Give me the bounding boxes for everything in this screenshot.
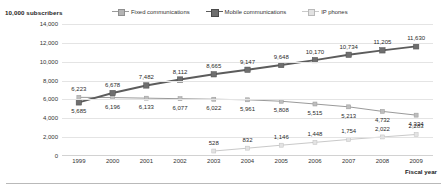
data-label: 5,515 (307, 110, 322, 116)
x-axis-tick-label: 2000 (106, 158, 119, 164)
data-point-marker (279, 62, 284, 67)
y-axis-tick-label: 6,000 (43, 96, 58, 102)
data-point-marker (347, 105, 351, 109)
data-label: 9,648 (274, 54, 289, 60)
gridline (62, 99, 433, 100)
data-label: 1,448 (307, 131, 322, 137)
legend-item-ip-phones[interactable]: IP phones (302, 8, 347, 15)
data-point-marker (313, 102, 317, 106)
data-label: 6,077 (173, 105, 188, 111)
y-axis-tick-label: 12,000 (40, 40, 58, 46)
data-label: 11,205 (373, 39, 391, 45)
data-point-marker (413, 44, 418, 49)
y-axis-tick-label: 14,000 (40, 21, 58, 27)
data-label: 11,630 (407, 35, 425, 41)
data-point-marker (110, 90, 115, 95)
data-point-marker (212, 149, 216, 153)
chart-legend: Fixed communications Mobile communicatio… (112, 8, 348, 15)
x-axis-tick-label: 2003 (207, 158, 220, 164)
data-label: 5,961 (240, 106, 255, 112)
data-label: 6,133 (139, 104, 154, 110)
legend-item-mobile-communications[interactable]: Mobile communications (206, 8, 287, 15)
data-label: 6,678 (105, 82, 120, 88)
data-label: 5,685 (71, 108, 86, 114)
data-label: 2,283 (409, 123, 424, 129)
data-label: 10,170 (306, 49, 324, 55)
legend-item-fixed-communications[interactable]: Fixed communications (112, 8, 190, 15)
data-label: 6,022 (206, 105, 221, 111)
data-label: 5,213 (341, 113, 356, 119)
x-axis-tick-label: 2006 (308, 158, 321, 164)
x-axis-tick-label: 1999 (72, 158, 85, 164)
gridline (62, 24, 433, 25)
series-line (79, 46, 416, 102)
x-axis-tick-label: 2004 (241, 158, 254, 164)
x-axis-tick-label: 2009 (409, 158, 422, 164)
data-label: 8,112 (173, 69, 188, 75)
data-label: 1,146 (274, 134, 289, 140)
y-axis-tick-label: 4,000 (43, 115, 58, 121)
data-point-marker (346, 52, 351, 57)
data-point-marker (76, 100, 81, 105)
y-axis-tick-label: 2,000 (43, 134, 58, 140)
data-label: 4,732 (375, 117, 390, 123)
data-point-marker (414, 132, 418, 136)
y-axis-tick-label: 0 (55, 153, 58, 159)
data-point-marker (313, 140, 317, 144)
bottom-divider (6, 183, 441, 184)
data-label: 1,754 (341, 128, 356, 134)
data-label: 10,734 (339, 44, 357, 50)
legend-label-mobile: Mobile communications (225, 9, 287, 15)
data-label: 6,196 (105, 104, 120, 110)
data-label: 8,665 (206, 63, 221, 69)
data-point-marker (144, 83, 149, 88)
data-label: 832 (242, 137, 252, 143)
legend-label-fixed: Fixed communications (131, 9, 190, 15)
data-label: 5,808 (274, 107, 289, 113)
y-axis-tick-label: 8,000 (43, 78, 58, 84)
x-axis-tick-label: 2008 (376, 158, 389, 164)
data-point-marker (279, 143, 283, 147)
x-axis-tick-label: 2001 (140, 158, 153, 164)
data-point-marker (380, 48, 385, 53)
data-point-marker (380, 109, 384, 113)
data-point-marker (211, 72, 216, 77)
plot-area: 02,0004,0006,0008,00010,00012,00014,0001… (62, 24, 433, 156)
y-axis-tick-label: 10,000 (40, 59, 58, 65)
x-axis-tick-label: 2005 (275, 158, 288, 164)
data-label: 2,022 (375, 126, 390, 132)
data-point-marker (246, 146, 250, 150)
data-label: 9,147 (240, 59, 255, 65)
data-label: 6,223 (71, 86, 86, 92)
data-point-marker (245, 67, 250, 72)
legend-label-ip: IP phones (321, 9, 347, 15)
line-chart: 10,000 subscribers Fixed communications … (0, 0, 447, 190)
legend-marker-fixed-icon (112, 8, 129, 15)
x-axis-tick-label: 2007 (342, 158, 355, 164)
data-point-marker (414, 113, 418, 117)
data-label: 528 (209, 140, 219, 146)
legend-marker-mobile-icon (206, 8, 223, 15)
legend-marker-ip-icon (302, 8, 319, 15)
y-axis-unit-label: 10,000 subscribers (5, 9, 63, 16)
x-axis-title: Fiscal year (405, 168, 437, 175)
data-label: 7,482 (139, 74, 154, 80)
x-axis-tick-label: 2002 (173, 158, 186, 164)
